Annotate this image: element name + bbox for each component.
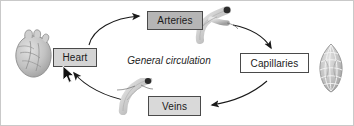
heart-illustration bbox=[10, 27, 56, 81]
node-arteries-label: Arteries bbox=[157, 15, 192, 26]
arrow-heart-to-arteries bbox=[89, 16, 139, 45]
node-capillaries-label: Capillaries bbox=[251, 58, 299, 69]
diagram-center-label: General circulation bbox=[114, 55, 224, 66]
node-veins-label: Veins bbox=[162, 101, 187, 112]
node-arteries[interactable]: Arteries bbox=[147, 11, 203, 30]
node-veins[interactable]: Veins bbox=[148, 96, 201, 116]
node-heart-label: Heart bbox=[63, 52, 88, 63]
arrow-arteries-to-capillaries bbox=[233, 25, 271, 48]
capillary-bed-illustration bbox=[312, 42, 350, 94]
circulation-diagram: Heart Arteries Capillaries Veins General… bbox=[0, 0, 354, 126]
node-capillaries[interactable]: Capillaries bbox=[240, 53, 309, 73]
arrow-capillaries-to-veins bbox=[212, 81, 267, 105]
mouse-pointer-icon bbox=[62, 65, 76, 85]
